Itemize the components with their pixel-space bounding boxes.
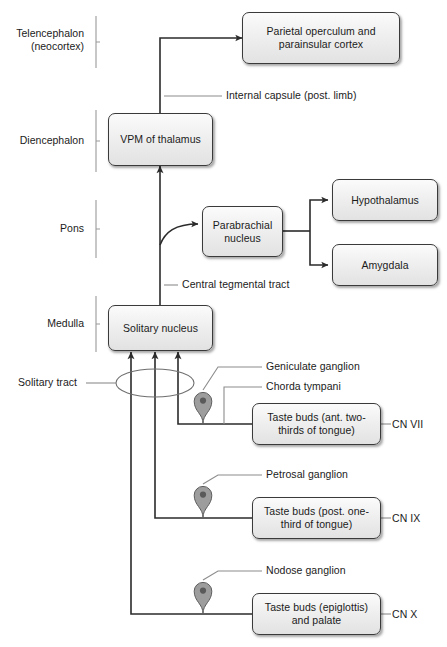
bracket-telencephalon [96,16,100,68]
bracket-pons [96,200,100,258]
cranial-nerve-label-cn9: CN IX [392,512,420,525]
node-parabrachial-nucleus[interactable]: Parabrachial nucleus [202,206,283,257]
tract-label-central-tegmental-tract: Central tegmental tract [182,278,289,291]
node-label-amygdala: Amygdala [357,259,412,272]
node-label-taste-buds-cn9: Taste buds (post. one-third of tongue) [253,505,380,531]
region-label-diencephalon: Diencephalon [6,134,84,147]
leader-geniculate-ganglion [203,367,262,390]
node-label-parietal-operculum: Parietal operculum and parainsular corte… [243,25,399,51]
node-hypothalamus[interactable]: Hypothalamus [332,179,438,221]
ganglion-label-petrosal: Petrosal ganglion [266,468,348,481]
node-solitary-nucleus[interactable]: Solitary nucleus [108,305,213,351]
region-label-pons: Pons [6,222,84,235]
geniculate-ganglion-icon [192,388,214,424]
node-parietal-operculum[interactable]: Parietal operculum and parainsular corte… [242,12,400,64]
node-label-vpm-thalamus: VPM of thalamus [116,133,205,146]
node-amygdala[interactable]: Amygdala [332,244,438,286]
node-taste-buds-cn7[interactable]: Taste buds (ant. two-thirds of tongue) [252,403,381,445]
branch-label-chorda-tympani: Chorda tympani [266,380,341,393]
node-label-parabrachial-nucleus: Parabrachial nucleus [203,219,282,245]
node-vpm-thalamus[interactable]: VPM of thalamus [108,113,213,166]
petrosal-ganglion-icon [192,482,214,518]
node-label-hypothalamus: Hypothalamus [347,194,423,207]
tract-label-solitary-tract: Solitary tract [18,376,77,389]
node-label-taste-buds-cn7: Taste buds (ant. two-thirds of tongue) [253,411,380,437]
wire-parabrachial-to-amygdala [310,231,328,265]
node-label-taste-buds-cn10: Taste buds (epiglottis) and palate [253,601,380,627]
solitary-tract-ellipse [116,369,194,397]
tract-label-internal-capsule: Internal capsule (post. limb) [226,89,356,102]
taste-pathway-diagram: Telencephalon (neocortex) Diencephalon P… [0,0,447,647]
node-taste-buds-cn10[interactable]: Taste buds (epiglottis) and palate [252,593,381,635]
bracket-medulla [96,296,100,352]
wire-parabrachial-to-hypothalamus [310,200,328,231]
wire-cn7-to-solitary [178,352,252,424]
wire-solitary-to-parabrachial [160,224,198,245]
cranial-nerve-label-cn10: CN X [392,608,417,621]
node-label-solitary-nucleus: Solitary nucleus [119,322,202,335]
region-label-medulla: Medulla [6,317,84,330]
bracket-diencephalon [96,110,100,172]
ganglion-label-nodose: Nodose ganglion [266,564,346,577]
region-label-telencephalon: Telencephalon (neocortex) [6,27,84,53]
node-taste-buds-cn9[interactable]: Taste buds (post. one-third of tongue) [252,497,381,539]
ganglion-label-geniculate: Geniculate ganglion [266,360,360,373]
nodose-ganglion-icon [192,578,214,614]
cranial-nerve-label-cn7: CN VII [392,418,423,431]
